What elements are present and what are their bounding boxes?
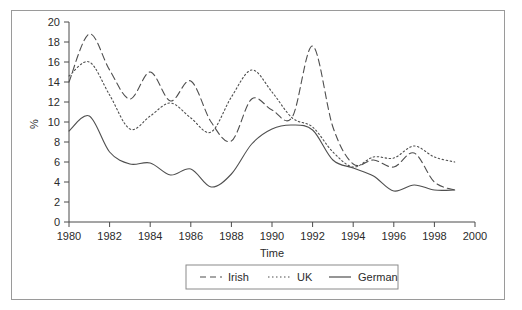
x-tick-label-1988: 1988 — [219, 230, 243, 242]
x-axis-title: Time — [260, 247, 284, 259]
series-line-irish — [69, 34, 455, 190]
x-tick-marks — [69, 222, 475, 227]
x-tick-label-1998: 1998 — [422, 230, 446, 242]
legend-label-german: German — [358, 271, 398, 283]
line-chart: 0 2 4 6 8 10 12 14 16 18 20 % 1980 1982 — [0, 0, 522, 310]
y-tick-label-16: 16 — [48, 56, 60, 68]
y-tick-label-20: 20 — [48, 16, 60, 28]
y-tick-label-0: 0 — [54, 216, 60, 228]
x-tick-label-1982: 1982 — [97, 230, 121, 242]
y-tick-label-18: 18 — [48, 36, 60, 48]
y-tick-label-6: 6 — [54, 156, 60, 168]
x-tick-label-1994: 1994 — [341, 230, 365, 242]
x-tick-label-1992: 1992 — [300, 230, 324, 242]
y-tick-label-2: 2 — [54, 196, 60, 208]
y-tick-label-12: 12 — [48, 96, 60, 108]
x-tick-label-1990: 1990 — [260, 230, 284, 242]
legend-label-uk: UK — [297, 271, 313, 283]
x-tick-label-1986: 1986 — [179, 230, 203, 242]
y-tick-label-14: 14 — [48, 76, 60, 88]
y-tick-label-8: 8 — [54, 136, 60, 148]
y-axis-title: % — [28, 119, 40, 129]
figure-container: 0 2 4 6 8 10 12 14 16 18 20 % 1980 1982 — [0, 0, 522, 310]
x-tick-label-1996: 1996 — [382, 230, 406, 242]
series-line-uk — [69, 62, 455, 167]
y-tick-marks — [64, 22, 69, 222]
x-tick-label-1984: 1984 — [138, 230, 162, 242]
y-tick-label-4: 4 — [54, 176, 60, 188]
y-tick-label-10: 10 — [48, 116, 60, 128]
legend-label-irish: Irish — [228, 271, 249, 283]
x-tick-label-2000: 2000 — [463, 230, 487, 242]
x-tick-label-1980: 1980 — [57, 230, 81, 242]
chart-legend: Irish UK German — [186, 265, 398, 289]
